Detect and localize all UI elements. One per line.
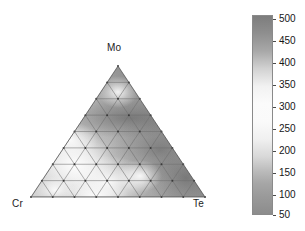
colorbar-tick-label: 200: [279, 146, 296, 156]
colorbar-tick-mark: [273, 129, 276, 130]
ternary-vertex-label-te: Te: [193, 198, 204, 209]
colorbar-tick: 250: [273, 124, 296, 134]
colorbar-tick: 200: [273, 146, 296, 156]
colorbar-tick-mark: [273, 195, 276, 196]
colorbar-tick-mark: [273, 19, 276, 20]
colorbar-tick-list: 500 450 400 350 300 250: [248, 12, 305, 218]
colorbar-tick-label: 100: [279, 190, 296, 200]
colorbar-tick: 450: [273, 36, 296, 46]
colorbar-tick: 100: [273, 190, 296, 200]
colorbar-tick-label: 50: [279, 210, 290, 220]
colorbar-tick-mark: [273, 63, 276, 64]
colorbar-tick-label: 450: [279, 36, 296, 46]
figure-root: Mo Cr Te 500 450 400 350: [0, 0, 305, 231]
colorbar-tick-mark: [273, 215, 276, 216]
field-hotspot-mid-left: [42, 122, 98, 158]
ternary-diagram: [0, 0, 232, 231]
colorbar-tick-mark: [273, 107, 276, 108]
colorbar-tick-mark: [273, 173, 276, 174]
colorbar-tick: 300: [273, 102, 296, 112]
colorbar-tick-mark: [273, 41, 276, 42]
ternary-vertex-label-cr: Cr: [12, 198, 23, 209]
colorbar: 500 450 400 350 300 250: [248, 12, 305, 220]
colorbar-tick-mark: [273, 151, 276, 152]
ternary-plot-panel: Mo Cr Te: [0, 0, 232, 231]
colorbar-tick: 150: [273, 168, 296, 178]
colorbar-tick: 350: [273, 80, 296, 90]
colorbar-tick-mark: [273, 85, 276, 86]
colorbar-tick-label: 500: [279, 14, 296, 24]
ternary-vertex-label-mo: Mo: [107, 42, 121, 53]
colorbar-tick: 400: [273, 58, 296, 68]
colorbar-tick: 500: [273, 14, 296, 24]
colorbar-tick-label: 350: [279, 80, 296, 90]
colorbar-tick: 50: [273, 210, 290, 220]
colorbar-tick-label: 250: [279, 124, 296, 134]
colorbar-tick-label: 400: [279, 58, 296, 68]
colorbar-tick-label: 300: [279, 102, 296, 112]
ternary-scalar-field: [31, 66, 226, 210]
colorbar-tick-label: 150: [279, 168, 296, 178]
field-hotspot-upper: [98, 76, 138, 108]
